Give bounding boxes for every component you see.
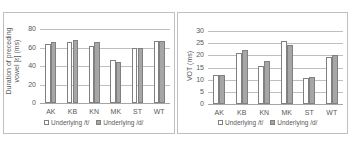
vot-chart: VOT (ms) 051015202530AKKBKNMKSTWT Underl… [177,12,348,134]
plot-area: 051015202530AKKBKNMKSTWT [208,31,343,104]
x-category-label: KN [84,108,104,115]
x-category-label: ST [299,109,319,116]
legend-label-t: Underlying /t/ [225,119,263,126]
legend-swatch-d [96,120,101,125]
gridline [208,31,343,32]
y-axis-label: Duration of preceding vowel [ɛ] (ms) [5,22,25,100]
gridline [40,29,170,30]
y-tick-label: 20 [22,81,36,88]
x-category-label: AK [41,108,61,115]
legend-label-d: Underlying /d/ [277,119,317,126]
gridline [40,66,170,67]
legend-swatch-t [218,120,223,125]
y-tick-label: 30 [190,27,204,34]
x-category-label: KN [254,109,274,116]
bar-kn-d [264,61,270,104]
y-tick-label: 10 [190,76,204,83]
bar-st-d [138,48,144,103]
legend: Underlying /t/ Underlying /d/ [44,119,143,126]
gridline [40,85,170,86]
x-category-label: AK [209,109,229,116]
x-category-label: WT [149,108,169,115]
gridline [208,104,343,105]
bar-st-d [309,77,315,104]
y-tick-label: 0 [22,99,36,106]
legend-swatch-t [44,120,49,125]
gridline [208,43,343,44]
x-category-label: MK [277,109,297,116]
x-category-label: KB [63,108,83,115]
x-category-label: ST [128,108,148,115]
gridline [208,55,343,56]
x-category-label: WT [322,109,342,116]
bar-mk-d [287,45,293,104]
plot-area: 020406080AKKBKNMKSTWT [40,29,170,103]
legend-label-d: Underlying /d/ [103,119,143,126]
bar-kb-d [73,40,79,103]
y-tick-label: 0 [190,100,204,107]
gridline [40,48,170,49]
x-category-label: MK [106,108,126,115]
bar-mk-d [116,62,122,103]
gridline [208,68,343,69]
x-category-label: KB [232,109,252,116]
bar-ak-d [219,75,225,104]
bar-wt-d [332,55,338,104]
gridline [208,80,343,81]
vowel-duration-chart: Duration of preceding vowel [ɛ] (ms) 020… [3,12,175,134]
y-tick-label: 15 [190,64,204,71]
cropped-caption-strip [0,0,351,4]
y-tick-label: 60 [22,44,36,51]
bar-wt-d [159,41,165,103]
gridline [40,103,170,104]
legend-swatch-d [270,120,275,125]
bar-kb-d [242,50,248,104]
bar-kn-d [94,42,100,103]
legend: Underlying /t/ Underlying /d/ [218,119,317,126]
bar-ak-d [51,42,57,103]
gridline [208,92,343,93]
legend-label-t: Underlying /t/ [51,119,89,126]
y-tick-label: 40 [22,62,36,69]
y-tick-label: 25 [190,39,204,46]
y-tick-label: 20 [190,51,204,58]
y-tick-label: 80 [22,25,36,32]
y-tick-label: 5 [190,88,204,95]
